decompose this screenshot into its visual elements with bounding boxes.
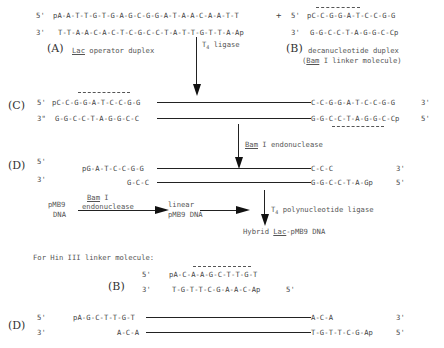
arrow-down-icon — [261, 214, 269, 226]
operator-top-line — [146, 317, 311, 318]
hin-linker-top-strand: pA-C-A-A-G-C-T-T-G-T — [169, 270, 258, 279]
recognition-site-overline — [316, 7, 360, 8]
hin-linker-bottom-strand: T-G-T-T-C-G-A-A-C-Ap — [172, 285, 261, 294]
right-top-sticky-end: A-C-A — [311, 313, 333, 322]
right-top-linker: C-C-G-G-A-T-C-C-G-G — [311, 98, 395, 107]
recognition-site-overline — [193, 266, 251, 267]
right-top-sticky-end: C-C-C — [311, 164, 333, 173]
right-bottom-sticky-end: T-G-T-T-C-G-Ap — [311, 328, 373, 337]
five-prime-label: 5' — [286, 285, 295, 294]
source-pmb9-label: pMB9 — [48, 200, 65, 209]
lac-operator-top-strand: pA-A-T-T-G-T-G-A-G-C-G-G-A-T-A-A-C-A-A-T… — [53, 11, 239, 20]
five-prime-label: 5' — [37, 157, 46, 166]
recognition-site-underline — [332, 126, 384, 127]
three-prime-label: 3" — [37, 114, 46, 123]
three-prime-label: 3' — [36, 28, 45, 37]
enzyme-label: T4 ligase — [202, 40, 240, 52]
plus-sign: + — [276, 11, 282, 20]
left-top-sticky-end: pG-A-T-C-C-G-G — [82, 164, 144, 173]
left-bottom-sticky-end: G-C-C — [127, 178, 149, 187]
left-top-linker: pC-C-G-G-A-T-C-C-G-G — [52, 98, 141, 107]
hybrid-product-label: Hybrid Lac-pMB9 DNA — [243, 227, 325, 236]
arrow-right-icon — [236, 206, 250, 214]
left-bottom-linker: G-G-C-C-T-A-G-G-C-C — [55, 114, 139, 123]
section-heading: For Hin III linker molecule: — [33, 253, 154, 262]
operator-bottom-line — [146, 332, 311, 333]
step-b-subcaption: (Bam I linker molecule) — [302, 56, 402, 65]
step-d-label-letter: (D) — [8, 160, 25, 172]
intermediate-line2: pMB9 DNA — [168, 210, 203, 219]
lac-gene-term: Lac — [72, 46, 85, 55]
linker-top-strand: pC-C-G-G-A-T-C-C-G-G — [307, 11, 396, 20]
three-prime-label: 3' — [291, 28, 300, 37]
three-prime-label: 3' — [396, 164, 405, 173]
operator-bottom-line — [157, 182, 311, 183]
operator-top-line — [157, 168, 311, 169]
operator-top-line — [157, 102, 311, 103]
intermediate-line1: linear — [168, 200, 194, 209]
five-prime-label: 5' — [291, 11, 300, 20]
arrow-shaft — [78, 210, 158, 211]
ligase-label: T4 polynucleotide ligase — [271, 205, 374, 217]
five-prime-label: 5' — [421, 114, 430, 123]
recognition-site-overline — [78, 92, 130, 93]
operator-bottom-line — [157, 118, 311, 119]
arrow-shaft — [264, 190, 265, 216]
arrow-shaft — [238, 124, 239, 160]
step-a-caption: Lac operator duplex — [72, 46, 154, 55]
enzyme-label: Bam I endonuclease — [245, 140, 323, 149]
left-top-sticky-end: pA-G-C-T-T-G-T — [73, 313, 135, 322]
step-b-label-letter: (B) — [286, 43, 303, 55]
three-prime-label: 3' — [396, 313, 405, 322]
five-prime-label: 5' — [37, 313, 46, 322]
linker-bottom-strand: G-G-C-C-T-A-G-G-C-Cp — [310, 28, 399, 37]
enzyme-line1: Bam I — [87, 193, 109, 202]
five-prime-label: 5' — [37, 98, 46, 107]
source-dna-label: DNA — [53, 210, 66, 219]
three-prime-label: 3' — [37, 175, 46, 184]
arrow-right-icon — [155, 206, 169, 214]
three-prime-label: 3' — [142, 285, 151, 294]
right-bottom-sticky-end: G-G-C-C-T-A-Gp — [311, 178, 373, 187]
lac-operator-bottom-strand: T-T-A-A-C-A-C-T-C-G-C-C-T-A-T-T-G-T-T-A-… — [58, 28, 244, 37]
right-bottom-linker: G-G-C-C-T-A-G-G-C-Cp — [311, 114, 400, 123]
step-b-caption: decanucleotide duplex — [308, 46, 399, 55]
arrow-down-icon — [193, 84, 201, 96]
step-a-label-letter: (A) — [47, 43, 64, 55]
step-c-label-letter: (C) — [8, 100, 25, 112]
arrow-shaft — [196, 37, 197, 87]
five-prime-label: 5' — [396, 178, 405, 187]
five-prime-label: 5' — [142, 270, 151, 279]
five-prime-label: 5' — [396, 328, 405, 337]
three-prime-label: 3' — [37, 328, 46, 337]
arrow-shaft — [200, 210, 240, 211]
hin-label-letter: (B) — [108, 281, 125, 293]
three-prime-label: 3' — [421, 98, 430, 107]
five-prime-label: 5' — [36, 11, 45, 20]
left-bottom-sticky-end: A-C-A — [117, 328, 139, 337]
step-d2-label-letter: (D) — [8, 320, 25, 332]
